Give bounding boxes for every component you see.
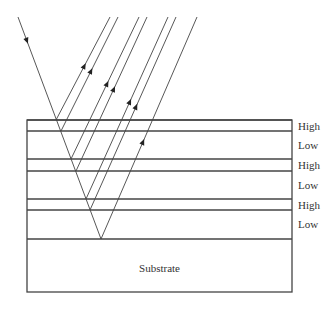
substrate-label: Substrate	[27, 262, 292, 274]
layer-label-1: High	[298, 120, 320, 132]
arrow-icon	[23, 37, 28, 44]
reflected-ray	[101, 17, 197, 239]
layer-label-5: High	[298, 199, 320, 211]
thin-film-diagram: High Low High Low High Low Substrate	[0, 0, 335, 314]
layer-label-6: Low	[298, 218, 318, 230]
incident-ray	[18, 17, 101, 239]
reflected-ray	[61, 17, 118, 131]
reflected-ray	[76, 17, 147, 171]
layer-label-4: Low	[298, 179, 318, 191]
layer-label-3: High	[298, 159, 320, 171]
layer-label-2: Low	[298, 139, 318, 151]
reflected-ray	[71, 17, 139, 159]
reflected-ray	[86, 17, 168, 199]
